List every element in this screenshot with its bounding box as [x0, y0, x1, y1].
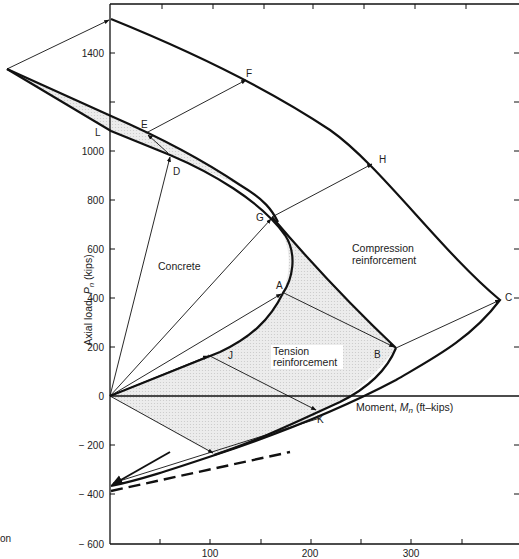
y-tick-neg600: − 600 [79, 539, 105, 550]
region-label-concrete: Concrete [158, 260, 201, 272]
region-label-compression-2: reinforcement [352, 254, 416, 266]
shade-top-band [7, 69, 250, 190]
point-label-L: L [95, 127, 101, 138]
y-tick-neg200: − 200 [79, 440, 105, 451]
x-axis-title: Moment, Mn (ft–kips) [356, 401, 453, 415]
point-label-G: G [256, 212, 264, 223]
point-label-K: K [317, 414, 324, 425]
y-tick-neg400: − 400 [79, 489, 105, 500]
dashed-tension-line [111, 452, 290, 491]
point-label-F: F [246, 68, 252, 79]
y-tick-1400: 1400 [82, 48, 105, 59]
y-tick-800: 800 [87, 195, 104, 206]
point-label-H: H [379, 154, 386, 165]
y-axis-title: Axial load, Pn (kips) [82, 254, 96, 345]
x-tick-300: 300 [403, 548, 420, 559]
region-label-tension-2: reinforcement [273, 356, 337, 368]
y-tick-0: 0 [98, 391, 104, 402]
interaction-diagram: 1400 1000 800 600 400 200 0 − 200 − 400 … [0, 0, 519, 559]
point-label-J: J [228, 350, 233, 361]
x-tick-labels: 100 200 300 [202, 548, 420, 559]
point-label-E: E [141, 119, 148, 130]
point-label-A-pos: A [276, 280, 283, 291]
point-label-B: B [374, 349, 381, 360]
point-label-D: D [173, 166, 180, 177]
x-tick-200: 200 [302, 548, 319, 559]
shaded-regions [7, 69, 396, 455]
cropped-caption-fragment: on [0, 533, 11, 544]
y-tick-1000: 1000 [82, 146, 105, 157]
region-label-compression-1: Compression [352, 242, 414, 254]
y-tick-600: 600 [87, 244, 104, 255]
x-tick-100: 100 [202, 548, 219, 559]
point-label-C: C [505, 292, 512, 303]
